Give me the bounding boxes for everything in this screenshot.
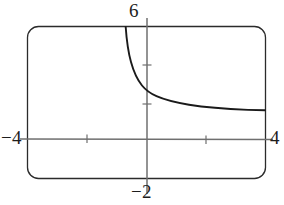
- x-min-label: −4: [1, 128, 22, 147]
- x-max-label: 4: [270, 128, 280, 147]
- graph-figure: 6 −2 −4 4: [0, 0, 284, 205]
- graph-canvas: [0, 0, 284, 205]
- y-min-label: −2: [131, 182, 152, 201]
- y-max-label: 6: [129, 1, 139, 20]
